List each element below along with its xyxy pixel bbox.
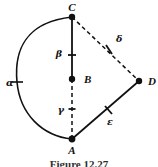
vertex-point-B (69, 76, 75, 82)
edge-label-epsilon: ε (107, 116, 113, 127)
vertex-label-A: A (67, 144, 75, 156)
vertex-label-D: D (147, 75, 156, 87)
figure-container: C B A D α β γ δ ε Figure 12.27 (0, 0, 158, 167)
edge-alpha-arc (17, 17, 72, 139)
edge-label-beta: β (55, 48, 63, 59)
vertex-label-B: B (83, 73, 91, 85)
edge-epsilon-line (72, 81, 139, 139)
edge-label-gamma: γ (58, 104, 65, 115)
geometry-diagram: C B A D α β γ δ ε (0, 0, 158, 167)
vertex-point-A (69, 136, 76, 143)
vertex-point-D (136, 78, 142, 84)
vertex-label-C: C (68, 1, 76, 13)
vertex-point-C (69, 14, 75, 20)
figure-caption: Figure 12.27 (0, 158, 158, 167)
edge-label-alpha: α (6, 77, 14, 88)
edge-delta-line (72, 17, 139, 81)
edge-label-delta: δ (115, 33, 122, 44)
